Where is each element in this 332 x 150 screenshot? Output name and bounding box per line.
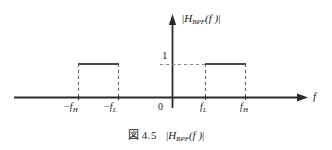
- tick-label-pos-fl: fL: [200, 101, 207, 114]
- amplitude-value-label: 1: [162, 49, 168, 61]
- tick-label-neg-fh: −fH: [64, 101, 78, 114]
- tick-label-pos-fl-subscript: L: [203, 106, 207, 114]
- figure-container: |HBPF(f )| 1 0 f −fH −fL fL fH 図4.5|HBPF…: [0, 0, 332, 150]
- figure-caption: 図4.5|HBPF(f )|: [0, 126, 332, 143]
- x-axis-arrowhead: [297, 94, 308, 102]
- caption-expression-bar-close: |: [202, 129, 204, 141]
- y-axis-arrowhead: [169, 14, 176, 25]
- origin-label: 0: [158, 101, 163, 112]
- y-axis-title-subscript: BPF: [192, 18, 205, 26]
- plot-svg: [0, 0, 332, 124]
- plot-area: |HBPF(f )| 1 0 f −fH −fL fL fH: [0, 0, 332, 124]
- y-axis-title-argument: (f ): [205, 12, 218, 24]
- caption-number: 4.5: [142, 129, 157, 141]
- caption-symbol: 図: [128, 129, 139, 142]
- caption-expression: |HBPF(f )|: [166, 129, 204, 141]
- caption-expression-subscript: BPF: [176, 135, 189, 143]
- tick-label-neg-fl-subscript: L: [113, 106, 117, 114]
- caption-expression-argument: (f ): [189, 129, 202, 141]
- x-axis-label: f: [313, 90, 316, 102]
- tick-label-pos-fh-subscript: H: [243, 106, 248, 114]
- caption-expression-symbol: H: [168, 129, 176, 141]
- tick-label-pos-fh: fH: [240, 101, 248, 114]
- tick-label-neg-fl: −fL: [104, 101, 117, 114]
- y-axis-title: |HBPF(f )|: [182, 12, 220, 26]
- y-axis-title-bar-close: |: [218, 12, 220, 24]
- y-axis-title-symbol: H: [184, 12, 192, 24]
- tick-label-neg-fh-subscript: H: [73, 106, 78, 114]
